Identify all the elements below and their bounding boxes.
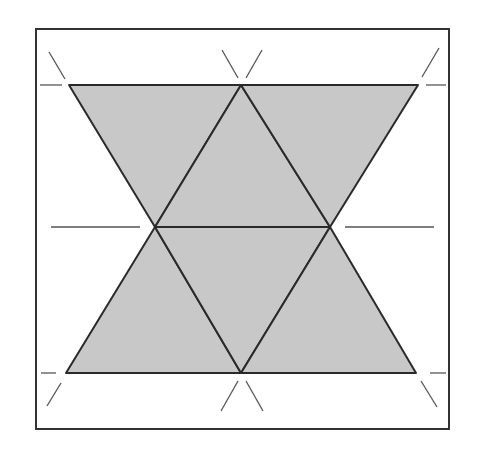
tick-top-apex-right [246, 50, 262, 78]
hourglass-triangle-diagram [0, 0, 477, 451]
tick-bottom-apex-left [221, 381, 238, 411]
tick-top-left-diagonal [49, 52, 65, 79]
tick-top-apex-left [222, 50, 238, 78]
tick-top-right-diagonal [422, 48, 439, 77]
tick-bottom-left-diagonal [47, 383, 61, 406]
tick-bottom-right-diagonal [421, 381, 437, 407]
tick-bottom-apex-right [246, 381, 263, 411]
